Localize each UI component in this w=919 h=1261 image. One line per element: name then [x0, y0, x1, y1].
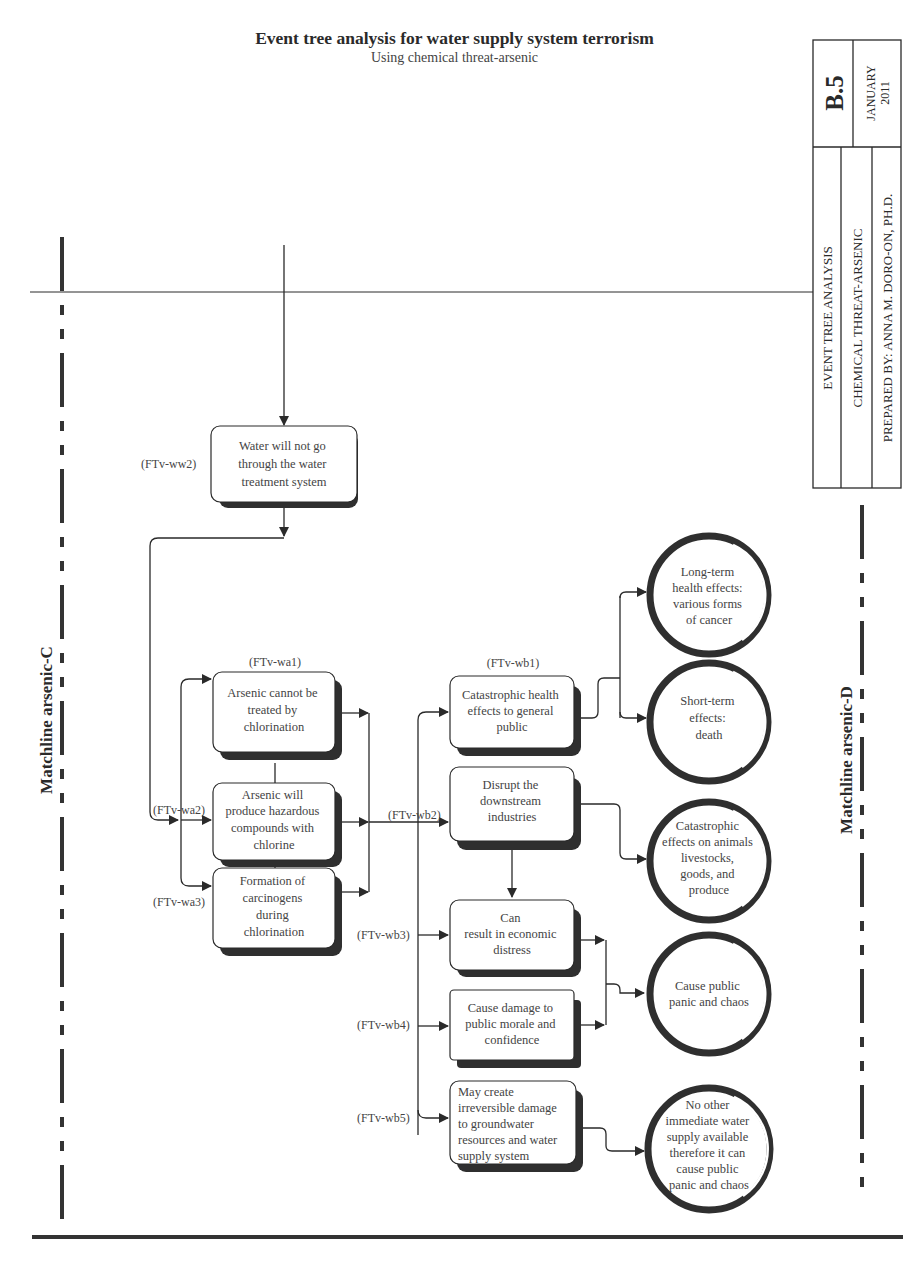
outcome-circle-2: Short-term effects: death [650, 663, 768, 781]
outcome-text-line: No other [685, 1098, 730, 1112]
matchline-left-label: Matchline arsenic-C [37, 646, 56, 794]
svg-text:Water will not go throug: Water will not go through the water trea… [238, 439, 329, 489]
event-code: (FTv-ww2) [141, 457, 196, 471]
node-text-line: irreversible damage [458, 1101, 557, 1115]
node-text-line: May create [458, 1085, 514, 1099]
sheet-number: B.5 [821, 75, 848, 110]
node-text-line: chlorination [244, 720, 305, 734]
event-node-ww2: (FTv-ww2) Water will not go through the … [141, 426, 358, 508]
outcome-text-line: Short-term [680, 694, 734, 708]
node-text-line: treated by [248, 703, 298, 717]
outcome-text-line: of cancer [686, 613, 733, 627]
event-code: (FTv-wa2) [153, 803, 205, 817]
outcome-text-line: Catastrophic [676, 819, 740, 833]
outcome-text-line: livestocks, [681, 851, 734, 865]
title-block-row3: PREPARED BY: ANNA M. DORO-ON, PH.D. [880, 194, 895, 443]
node-text-line: compounds with [231, 821, 315, 835]
node-text-line: chlorination [244, 925, 305, 939]
node-text-line: during [256, 908, 289, 922]
outcome-circle-3: Catastrophic effects on animals livestoc… [650, 802, 768, 920]
outcome-text-line: Cause public [675, 979, 740, 993]
node-text-line: Arsenic will [242, 788, 304, 802]
event-code: (FTv-wb2) [388, 808, 441, 822]
event-node-wb1: (FTv-wb1) Catastrophic health effects to… [450, 656, 581, 756]
node-text-line: downstream [480, 794, 541, 808]
outcome-circle-5: No other immediate water supply availabl… [648, 1088, 770, 1210]
matchline-left: Matchline arsenic-C [37, 237, 62, 1225]
event-node-wb3: (FTv-wb3) Can result in economic distres… [357, 900, 581, 977]
node-text-line: Disrupt the [482, 778, 538, 792]
svg-text:Disrupt the downstream: Disrupt the downstream industries [480, 778, 544, 824]
node-text-line: treatment system [241, 475, 326, 489]
matchline-right-label: Matchline arsenic-D [837, 686, 856, 834]
outcome-text-line: panic and chaos [669, 1178, 749, 1192]
node-text-line: Water will not go [239, 439, 326, 453]
event-code: (FTv-wa1) [249, 655, 301, 669]
node-text-line: through the water [238, 457, 327, 471]
event-code: (FTv-wb3) [357, 928, 410, 942]
outcome-text-line: immediate water [666, 1114, 750, 1128]
sheet-month: JANUARY [864, 65, 878, 121]
event-node-wa1: (FTv-wa1) Arsenic cannot be treated by c… [213, 655, 342, 760]
outcome-text-line: therefore it can [670, 1146, 746, 1160]
node-text-line: supply system [458, 1149, 529, 1163]
event-code: (FTv-wb4) [357, 1018, 410, 1032]
node-text-line: Can [500, 911, 521, 925]
node-text-line: public morale and [465, 1017, 556, 1031]
event-node-wb4: (FTv-wb4) Cause damage to public morale … [357, 990, 581, 1068]
title-block-row2: CHEMICAL THREAT-ARSENIC [850, 228, 865, 407]
outcome-text-line: produce [689, 883, 730, 897]
outcome-text-line: health effects: [672, 581, 742, 595]
event-code: (FTv-wa3) [153, 895, 205, 909]
outcome-circle-1: Long-term health effects: various forms … [650, 536, 768, 654]
node-text-line: distress [493, 943, 531, 957]
node-text-line: result in economic [464, 927, 557, 941]
title-block: B.5 JANUARY 2011 EVENT TREE ANALYSIS CHE… [813, 40, 901, 488]
event-code: (FTv-wb1) [487, 656, 540, 670]
node-text-line: Catastrophic health [462, 688, 560, 702]
node-text-line: chlorine [254, 838, 295, 852]
event-node-wb5: (FTv-wb5) May create irreversible damage… [357, 1081, 583, 1172]
outcome-text-line: death [695, 728, 723, 742]
node-text-line: confidence [485, 1033, 540, 1047]
node-text-line: effects to general [468, 704, 554, 718]
node-text-line: Cause damage to [468, 1001, 553, 1015]
node-text-line: resources and water [458, 1133, 558, 1147]
node-text-line: Arsenic cannot be [227, 686, 318, 700]
outcome-text-line: supply available [667, 1130, 749, 1144]
node-text-line: industries [488, 810, 537, 824]
node-text-line: carcinogens [243, 891, 303, 905]
outcome-circle-4: Cause public panic and chaos [650, 935, 768, 1053]
outcome-text-line: goods, and [680, 867, 735, 881]
outcome-text-line: panic and chaos [669, 995, 749, 1009]
title-block-row1: EVENT TREE ANALYSIS [820, 246, 835, 389]
node-text-line: to groundwater [458, 1117, 535, 1131]
outcome-text-line: cause public [676, 1162, 739, 1176]
outcome-text-line: Long-term [681, 565, 735, 579]
event-node-wb2: (FTv-wb2) Disrupt the downstream industr… [388, 767, 581, 850]
node-text-line: produce hazardous [225, 804, 319, 818]
outcome-text-line: various forms [673, 597, 742, 611]
outcome-text-line: effects: [689, 711, 726, 725]
event-code: (FTv-wb5) [357, 1111, 410, 1125]
node-text-line: Formation of [240, 874, 306, 888]
sheet-year: 2011 [878, 81, 892, 105]
matchline-right: Matchline arsenic-D [837, 505, 862, 1200]
outcome-text-line: effects on animals [662, 835, 753, 849]
node-text-line: public [496, 720, 528, 734]
